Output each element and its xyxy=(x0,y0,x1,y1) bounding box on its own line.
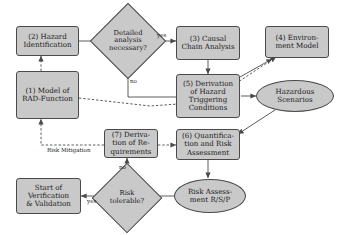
node-causal-chain-analysis[interactable]: (3) Causal Chain Analysis xyxy=(176,26,240,60)
edge-label-risk-mitigation: Risk Mitigation xyxy=(47,148,91,154)
edge-n5-to-n4 xyxy=(240,59,272,77)
node-hazard-identification[interactable]: (2) Hazard Identification xyxy=(16,26,79,56)
node-label: Hazardous Scenarios xyxy=(274,88,317,104)
node-label: Risk Assess- ment R/S/P xyxy=(186,188,234,204)
edge-label-yes-detailed-analysis: yes xyxy=(157,33,166,39)
node-label: (7) Deriva- tion of Re- quirements xyxy=(109,131,154,155)
edge-label-yes-risk-tolerable: yes xyxy=(87,199,96,205)
node-model-of-rad-function[interactable]: (1) Model of RAD-Function xyxy=(16,71,79,119)
node-label: Detailed analysis necessary? xyxy=(101,30,155,53)
node-label: (2) Hazard Identification xyxy=(21,33,73,49)
node-label: (6) Quantifica- tion and Risk Assessment xyxy=(180,132,236,156)
node-risk-tolerable-decision[interactable]: Risk tolerable? xyxy=(102,173,152,223)
edge-label-no-risk-tolerable: no xyxy=(119,165,126,171)
node-hazardous-scenarios[interactable]: Hazardous Scenarios xyxy=(256,80,334,112)
node-environment-model[interactable]: (4) Environ- ment Model xyxy=(265,26,329,58)
node-label: Start of Verification & Validation xyxy=(24,184,73,208)
node-label: (4) Environ- ment Model xyxy=(273,34,320,50)
node-detailed-analysis-decision[interactable]: Detailed analysis necessary? xyxy=(101,14,155,68)
node-label: (5) Derivation of Hazard Triggering Cond… xyxy=(181,80,235,112)
edge-label-no-detailed-analysis: no xyxy=(130,79,137,85)
node-derivation-hazard-triggering-conditions[interactable]: (5) Derivation of Hazard Triggering Cond… xyxy=(176,74,240,118)
edge-n7-to-n1-risk-mitigation-dashed xyxy=(41,119,104,145)
node-risk-assessment-rsp[interactable]: Risk Assess- ment R/S/P xyxy=(174,179,246,213)
node-label: Risk tolerable? xyxy=(102,190,152,205)
node-label: (3) Causal Chain Analysis xyxy=(179,35,236,51)
node-derivation-of-requirements[interactable]: (7) Deriva- tion of Re- quirements xyxy=(104,129,158,158)
node-label: (1) Model of RAD-Function xyxy=(20,87,75,103)
edge-hazardous-scenarios-to-n6 xyxy=(238,110,275,134)
node-start-of-verification-and-validation[interactable]: Start of Verification & Validation xyxy=(16,178,81,214)
node-quantification-and-risk-assessment[interactable]: (6) Quantifica- tion and Risk Assessment xyxy=(176,129,240,160)
flowchart-diagram: (2) Hazard Identification Detailed analy… xyxy=(0,0,345,235)
